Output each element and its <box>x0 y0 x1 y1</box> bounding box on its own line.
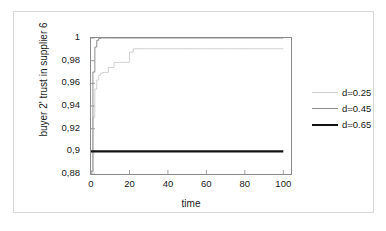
legend-label: d=0.25 <box>342 86 371 100</box>
x-tick-label: 40 <box>163 178 174 189</box>
legend-swatch-icon <box>312 124 338 126</box>
legend-item: d=0.65 <box>310 118 386 132</box>
legend-item: d=0.45 <box>310 102 386 116</box>
x-tick-label: 80 <box>240 178 251 189</box>
y-tick-label: 0,96 <box>38 77 86 87</box>
legend-swatch-icon <box>312 108 338 109</box>
plot-area <box>90 37 292 175</box>
chart-figure: buyer 2' trust in supplier 6 0,880,90,92… <box>0 0 386 231</box>
y-tick-label: 0,92 <box>38 123 86 133</box>
series-line-0 <box>91 49 283 172</box>
x-tick-label: 100 <box>275 178 291 189</box>
x-axis-title: time <box>90 198 292 209</box>
y-tick-label: 0,94 <box>38 100 86 110</box>
series-canvas <box>91 38 291 174</box>
x-axis-tick-labels: 020406080100 <box>90 178 292 192</box>
x-tick-label: 20 <box>124 178 135 189</box>
y-tick-label: 1 <box>38 32 86 42</box>
chart-outer-frame: buyer 2' trust in supplier 6 0,880,90,92… <box>13 11 374 213</box>
y-axis-tick-labels: 0,880,90,920,940,960,981 <box>44 37 86 175</box>
x-tick-label: 60 <box>201 178 212 189</box>
y-tick-label: 0,98 <box>38 55 86 65</box>
legend-label: d=0.45 <box>342 102 371 116</box>
legend-label: d=0.65 <box>342 118 371 132</box>
chart-legend: d=0.25d=0.45d=0.65 <box>310 86 386 138</box>
y-tick-label: 0,88 <box>38 168 86 178</box>
y-tick-label: 0,9 <box>38 145 86 155</box>
legend-swatch-icon <box>312 92 338 93</box>
x-tick-label: 0 <box>88 178 93 189</box>
legend-item: d=0.25 <box>310 86 386 100</box>
